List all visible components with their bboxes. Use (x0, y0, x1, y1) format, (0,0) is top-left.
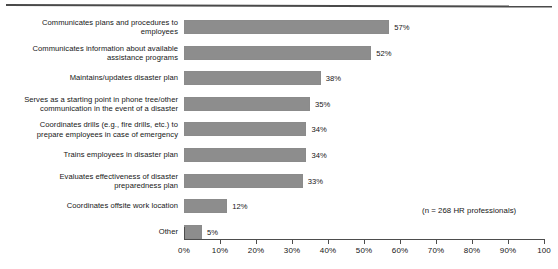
bar-row: Trains employees in disaster plan34% (0, 142, 558, 168)
x-axis-tick-label: 70% (428, 246, 444, 255)
bar-value-label: 33% (308, 176, 323, 185)
bar-row: Communicates information about available… (0, 40, 558, 66)
bar-value-label: 34% (311, 151, 326, 160)
bar-row: Evaluates effectiveness of disaster prep… (0, 168, 558, 194)
bar-row: Coordinates drills (e.g., fire drills, e… (0, 116, 558, 142)
x-axis-tick (364, 239, 365, 244)
bar (184, 122, 306, 136)
bar-value-label: 52% (376, 48, 391, 57)
category-label: Coordinates offsite work location (0, 201, 178, 210)
bar (184, 148, 306, 162)
page-divider-rule (6, 4, 552, 8)
bar-row: Maintains/updates disaster plan38% (0, 65, 558, 91)
x-axis-tick-label: 40% (320, 246, 336, 255)
category-label: Maintains/updates disaster plan (0, 73, 178, 82)
x-axis-tick (400, 239, 401, 244)
bar (184, 46, 371, 60)
bar-value-label: 34% (311, 125, 326, 134)
bar (184, 225, 202, 239)
x-axis-tick-label: 20% (248, 246, 264, 255)
category-label: Serves as a starting point in phone tree… (0, 94, 178, 113)
x-axis-tick-label: 50% (356, 246, 372, 255)
bar-value-label: 12% (232, 202, 247, 211)
bar-value-label: 38% (326, 74, 341, 83)
x-axis-tick (472, 239, 473, 244)
x-axis-tick (508, 239, 509, 244)
x-axis-tick-label: 100 (537, 246, 551, 255)
x-axis-tick-label: 10% (212, 246, 228, 255)
bar (184, 199, 227, 213)
x-axis-tick-label: 60% (392, 246, 408, 255)
x-axis-tick (220, 239, 221, 244)
bar (184, 71, 321, 85)
category-label: Other (0, 227, 178, 236)
bar-value-label: 35% (315, 99, 330, 108)
x-axis-tick-label: 90% (500, 246, 516, 255)
bar-row: Communicates plans and procedures to emp… (0, 14, 558, 40)
x-axis-tick (328, 239, 329, 244)
bar-value-label: 5% (207, 227, 218, 236)
x-axis-tick (436, 239, 437, 244)
category-label: Coordinates drills (e.g., fire drills, e… (0, 120, 178, 139)
bar-value-label: 57% (394, 23, 409, 32)
x-axis-tick-label: 30% (284, 246, 300, 255)
x-axis-tick-label: 80% (464, 246, 480, 255)
bar-row: Serves as a starting point in phone tree… (0, 91, 558, 117)
bar-row: Other5% (0, 219, 558, 245)
category-label: Trains employees in disaster plan (0, 150, 178, 159)
x-axis-tick (256, 239, 257, 244)
bar (184, 20, 389, 34)
sample-size-note: (n = 268 HR professionals) (422, 206, 516, 215)
category-label: Evaluates effectiveness of disaster prep… (0, 171, 178, 190)
horizontal-bar-chart: Communicates plans and procedures to emp… (0, 0, 558, 269)
bar (184, 97, 310, 111)
x-axis-tick (292, 239, 293, 244)
category-label: Communicates information about available… (0, 43, 178, 62)
category-label: Communicates plans and procedures to emp… (0, 18, 178, 37)
x-axis-tick (544, 239, 545, 244)
x-axis-tick-label: 0% (178, 246, 190, 255)
bar (184, 174, 303, 188)
